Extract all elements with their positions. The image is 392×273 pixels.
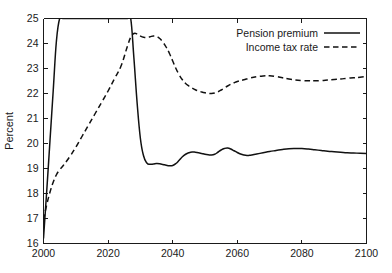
plot-frame	[44, 19, 367, 244]
y-axis-tick-label: 19	[27, 162, 39, 174]
y-axis-title: Percent	[3, 112, 15, 150]
y-axis-tick-label: 18	[27, 187, 39, 199]
x-axis-tick-label: 2080	[290, 247, 314, 259]
axes: 1617181920212223242520002020204020602080…	[27, 12, 379, 258]
x-axis-tick-label: 2020	[96, 247, 120, 259]
x-axis-tick-label: 2100	[355, 247, 379, 259]
y-axis-tick-label: 21	[27, 112, 39, 124]
data-series	[44, 15, 367, 239]
series-line-pension-premium	[44, 15, 367, 239]
y-axis-tick-label: 23	[27, 62, 39, 74]
y-axis-tick-label: 20	[27, 137, 39, 149]
y-axis-tick-label: 22	[27, 87, 39, 99]
line-chart: 1617181920212223242520002020204020602080…	[0, 0, 392, 273]
legend-label-pension-premium: Pension premium	[236, 27, 318, 39]
chart-legend: Pension premiumIncome tax rate	[236, 27, 360, 53]
y-axis-tick-label: 24	[27, 37, 39, 49]
y-axis-tick-label: 25	[27, 12, 39, 24]
series-line-income-tax-rate	[44, 33, 367, 220]
chart-figure: 1617181920212223242520002020204020602080…	[0, 0, 392, 273]
x-axis-tick-label: 2060	[226, 247, 250, 259]
y-axis-tick-label: 17	[27, 212, 39, 224]
x-axis-tick-label: 2000	[32, 247, 56, 259]
legend-label-income-tax-rate: Income tax rate	[246, 41, 319, 53]
x-axis-tick-label: 2040	[161, 247, 185, 259]
